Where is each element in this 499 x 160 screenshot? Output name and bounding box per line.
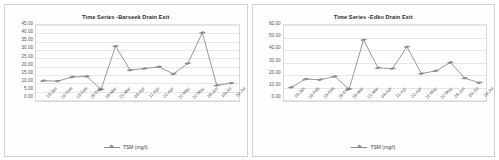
y-axis-tick: 20.00	[11, 63, 33, 68]
y-axis-tick: 50.00	[259, 35, 281, 40]
data-point-marker	[359, 38, 366, 41]
x-axis-tick: 23-Feb	[322, 86, 335, 99]
x-axis-tick: 03-Apr	[380, 86, 393, 99]
data-point-marker	[40, 79, 47, 82]
x-axis-tick: 21-Mar	[118, 86, 131, 99]
data-point-marker	[432, 69, 439, 72]
chart-title: Time Series -Barseek Drain Exit	[5, 5, 247, 21]
x-axis-tick: 22-Apr	[410, 86, 423, 99]
data-point-marker	[403, 45, 410, 48]
x-axis-tick: 22-Apr	[162, 86, 175, 99]
data-point-marker	[446, 61, 453, 64]
x-axis-tick: 11-Apr	[395, 86, 408, 99]
x-axis-tick: 11-May	[177, 86, 191, 100]
legend-marker-icon	[351, 145, 367, 150]
y-axis-tick: 45.00	[11, 22, 33, 27]
x-axis-tick: 19-Jan	[45, 86, 58, 99]
legend: TSM (mg/l)	[253, 144, 495, 150]
y-axis-tick: 35.00	[11, 39, 33, 44]
x-axis-tick: 11-Apr	[147, 86, 160, 99]
x-axis-tick: 22-May	[192, 86, 206, 100]
legend-label: TSM (mg/l)	[370, 144, 395, 150]
x-axis-tick: 28-Jun	[453, 86, 466, 99]
data-point-marker	[199, 31, 206, 34]
charts-page: Time Series -Barseek Drain Exit 45.0040.…	[0, 0, 499, 160]
x-axis-tick: 09-Jul	[220, 86, 232, 98]
chart-card-barseek: Time Series -Barseek Drain Exit 45.0040.…	[4, 4, 248, 157]
x-axis-tick: 21-Mar	[366, 86, 379, 99]
x-axis-tick: 28-Feb	[89, 86, 102, 99]
y-axis-tick: 30.00	[11, 47, 33, 52]
series-polyline	[43, 33, 231, 90]
legend-label: TSM (mg/l)	[123, 144, 148, 150]
y-axis-tick: 0.00	[11, 96, 33, 101]
x-axis: 19-Jan10-Feb23-Feb28-Feb18-Mar21-Mar03-A…	[283, 86, 488, 116]
y-axis-tick: 40.00	[259, 47, 281, 52]
chart-card-edko: Time Series -Edko Drain Exit 60.0050.004…	[252, 4, 496, 157]
data-point-marker	[388, 67, 395, 70]
series-polyline	[291, 40, 479, 89]
data-point-marker	[141, 67, 148, 70]
data-point-marker	[126, 69, 133, 72]
legend: TSM (mg/l)	[5, 144, 247, 150]
y-axis: 60.0050.0040.0030.0020.0010.000.00	[259, 24, 281, 102]
x-axis-tick: 11-May	[424, 86, 438, 100]
y-axis-tick: 60.00	[259, 22, 281, 27]
y-axis-tick: 10.00	[11, 79, 33, 84]
data-point-marker	[228, 82, 235, 85]
y-axis-tick: 25.00	[11, 55, 33, 60]
y-axis-tick: 10.00	[259, 84, 281, 89]
x-axis-tick: 28-Feb	[337, 86, 350, 99]
chart-title: Time Series -Edko Drain Exit	[253, 5, 495, 21]
x-axis-tick: 19-Jan	[293, 86, 306, 99]
y-axis-tick: 15.00	[11, 71, 33, 76]
x-axis-tick: 10-Feb	[307, 86, 320, 99]
data-point-marker	[83, 75, 90, 78]
y-axis-tick: 40.00	[11, 31, 33, 36]
legend-marker-icon	[104, 145, 120, 150]
data-point-marker	[112, 45, 119, 48]
x-axis: 19-Jan10-Feb23-Feb28-Feb18-Mar21-Mar03-A…	[35, 86, 240, 116]
data-point-marker	[374, 67, 381, 70]
data-point-marker	[417, 72, 424, 75]
data-point-marker	[184, 62, 191, 65]
x-axis-tick: 23-Feb	[75, 86, 88, 99]
y-axis-tick: 5.00	[11, 88, 33, 93]
x-axis-tick: 22-May	[439, 86, 453, 100]
x-axis-tick: 10-Feb	[60, 86, 73, 99]
y-axis-tick: 20.00	[259, 71, 281, 76]
y-axis: 45.0040.0035.0030.0025.0020.0015.0010.00…	[11, 24, 33, 102]
x-axis-tick: 03-Apr	[133, 86, 146, 99]
x-axis-tick: 18-Mar	[104, 86, 117, 99]
x-axis-tick: 18-Mar	[351, 86, 364, 99]
y-axis-tick: 0.00	[259, 96, 281, 101]
x-axis-tick: 28-Jun	[206, 86, 219, 99]
x-axis-tick: 09-Jul	[468, 86, 480, 98]
y-axis-tick: 30.00	[259, 59, 281, 64]
